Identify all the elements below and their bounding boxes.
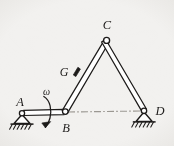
joint-b	[63, 109, 69, 115]
link-ab	[24, 109, 65, 115]
point-g-marker	[73, 67, 80, 76]
joint-c	[104, 37, 110, 43]
centerline-bd	[68, 111, 142, 112]
link-bc	[62, 40, 109, 114]
link-cd	[102, 39, 147, 111]
label-c: C	[103, 18, 112, 32]
label-b: B	[62, 121, 70, 135]
mechanism-diagram: A B C D G ω	[0, 0, 174, 146]
label-a: A	[15, 95, 24, 109]
label-g: G	[60, 65, 69, 79]
mechanism-figure: A B C D G ω	[0, 0, 174, 146]
label-d: D	[154, 104, 164, 118]
label-omega: ω	[43, 86, 50, 97]
